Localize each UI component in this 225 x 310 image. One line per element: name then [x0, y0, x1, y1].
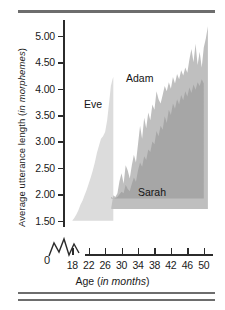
x-axis-tick-label: 42 [165, 259, 176, 271]
x-axis-tick-mark [154, 248, 155, 255]
chart-figure: Average utterance length (in morphemes) … [0, 14, 225, 289]
x-axis-tick-mark [187, 248, 188, 255]
y-axis-tick-label: 2.50 [35, 162, 55, 174]
y-axis-tick-mark [58, 89, 64, 91]
y-axis-break-zigzag [48, 226, 82, 260]
x-axis-tick-mark [72, 248, 73, 255]
y-axis-tick-label: 4.50 [35, 56, 55, 68]
x-axis-tick-label: 22 [83, 259, 94, 271]
x-axis-title-italic: in months [101, 275, 147, 287]
x-axis-tick-label: 30 [116, 259, 127, 271]
series-label-eve: Eve [84, 98, 102, 110]
y-axis-tick-label: 2.00 [35, 188, 55, 200]
y-axis-tick-label: 4.00 [35, 83, 55, 95]
x-axis-tick-mark [105, 248, 106, 255]
y-axis-title-main: Average utterance length ( [16, 113, 27, 227]
y-axis-title-close: ) [16, 48, 27, 51]
x-axis-tick-mark [204, 248, 205, 255]
bottom-divider-rule-1 [18, 292, 215, 294]
top-divider-rule [18, 10, 215, 13]
y-axis-tick-mark [58, 194, 64, 196]
x-axis-tick-mark [138, 248, 139, 255]
x-axis-title-main: Age ( [75, 275, 100, 287]
x-axis-tick-label: 34 [132, 259, 143, 271]
series-label-sarah: Sarah [138, 186, 166, 198]
bottom-divider-rule-2 [18, 299, 215, 301]
y-axis-tick-mark [58, 115, 64, 117]
x-axis-title-close: ) [146, 275, 150, 287]
y-axis-tick-label: 3.00 [35, 135, 55, 147]
x-axis-tick-mark [171, 248, 172, 255]
y-axis-tick-mark [58, 168, 64, 170]
x-axis-tick-label: 46 [182, 259, 193, 271]
x-axis-tick-label: 18 [67, 259, 78, 271]
y-axis-zero-label: 0 [44, 254, 50, 266]
y-axis-tick-mark [58, 62, 64, 64]
y-axis-tick-mark [58, 36, 64, 38]
series-label-adam: Adam [126, 72, 153, 84]
x-axis-tick-label: 26 [100, 259, 111, 271]
y-axis-title-italic: in morphemes [16, 51, 27, 112]
x-axis-tick-mark [122, 248, 123, 255]
y-axis-tick-label: 5.00 [35, 30, 55, 42]
y-axis-tick-label: 1.50 [35, 215, 55, 227]
x-axis-tick-label: 50 [198, 259, 209, 271]
x-axis-tick-label: 38 [149, 259, 160, 271]
y-axis-tick-mark [58, 221, 64, 223]
y-axis-tick-label: 3.50 [35, 109, 55, 121]
y-axis-title: Average utterance length (in morphemes) [16, 33, 27, 243]
x-axis-title: Age (in months) [0, 275, 225, 287]
y-axis-tick-mark [58, 141, 64, 143]
x-axis-tick-mark [89, 248, 90, 255]
